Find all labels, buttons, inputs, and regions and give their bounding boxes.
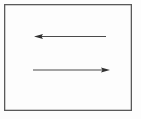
- figure-canvas: [0, 0, 141, 119]
- rectangle-border: [5, 5, 132, 111]
- figure-svg: [0, 0, 141, 119]
- leftward-arrow: [34, 34, 106, 39]
- rightward-arrow: [33, 68, 110, 73]
